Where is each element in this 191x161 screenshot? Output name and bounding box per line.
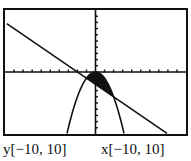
x-window-label: x[−10, 10] xyxy=(101,141,164,158)
graph-screen xyxy=(0,0,191,140)
y-window-label: y[−10, 10] xyxy=(3,141,66,158)
